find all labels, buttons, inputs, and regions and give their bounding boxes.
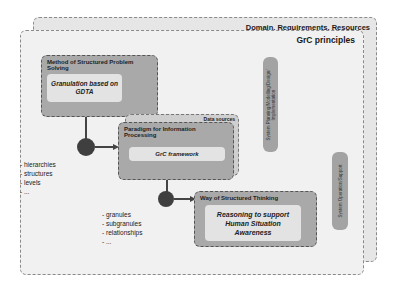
grc-framework-pill: GrC framework: [129, 147, 225, 161]
grc-principles-label: GrC principles: [296, 35, 355, 45]
junction-dot: [77, 138, 95, 156]
operation-label: System Operation/Support: [338, 164, 343, 217]
method-title: Method of Structured Problem Solving: [42, 56, 157, 74]
junction-dot: [158, 191, 174, 207]
thinking-title: Way of Structured Thinking: [195, 192, 316, 204]
paradigm-box: Paradigm for Information Processing GrC …: [118, 122, 234, 180]
list-granules: - granules - subgranules - relationships…: [102, 210, 142, 246]
paradigm-title: Paradigm for Information Processing: [119, 123, 233, 141]
operation-bar: System Operation/Support: [332, 152, 348, 230]
thinking-box: Way of Structured Thinking Reasoning to …: [194, 191, 317, 247]
granulation-pill: Granulation based on GDTA: [47, 74, 122, 102]
connector-line: [95, 146, 115, 148]
reasoning-pill: Reasoning to support Human Situation Awa…: [205, 205, 301, 241]
connector-line: [85, 117, 87, 139]
list-hierarchies: - hierarchies - structures - levels - ..…: [20, 160, 56, 196]
method-box: Method of Structured Problem Solving Gra…: [41, 55, 158, 117]
planning-bar: System Planning/Modelling/Design/ Implem…: [263, 57, 278, 152]
planning-label: System Planning/Modelling/Design/ Implem…: [266, 60, 276, 150]
